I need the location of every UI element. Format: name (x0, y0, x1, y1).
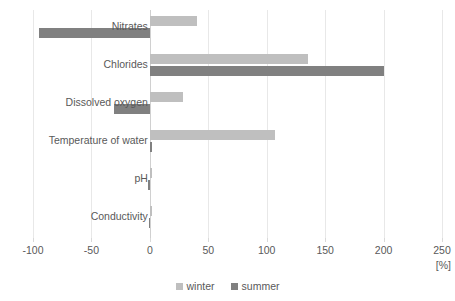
bar-summer (150, 142, 152, 152)
bar-winter (150, 130, 275, 140)
tick-mark-200 (384, 238, 385, 242)
tick-mark-0 (150, 238, 151, 242)
x-tick-label: 150 (316, 244, 334, 257)
bar-group: Nitrates (33, 10, 442, 48)
chart-legend: wintersummer (0, 280, 455, 293)
bar-winter (150, 168, 152, 178)
bar-chart: NitratesChloridesDissolved oxygenTempera… (0, 0, 455, 301)
bar-summer (114, 104, 150, 114)
x-tick-label: 250 (433, 244, 451, 257)
bar-group: pH (33, 162, 442, 200)
category-label: Conductivity (33, 209, 148, 223)
bar-group: Dissolved oxygen (33, 86, 442, 124)
bar-summer (39, 28, 150, 38)
x-tick-label: 50 (202, 244, 214, 257)
x-axis: -100-50050100150200250 (33, 238, 442, 262)
gridline-250 (442, 10, 443, 238)
bar-summer (149, 218, 150, 228)
legend-item-winter[interactable]: winter (176, 280, 215, 293)
tick-mark--50 (91, 238, 92, 242)
bar-winter (150, 16, 197, 26)
tick-mark-150 (325, 238, 326, 242)
legend-label: summer (242, 280, 280, 293)
tick-mark-100 (267, 238, 268, 242)
category-label: pH (33, 171, 148, 185)
bar-summer (150, 66, 384, 76)
category-label: Chlorides (33, 57, 148, 71)
bar-winter (150, 54, 308, 64)
bar-winter (150, 206, 152, 216)
tick-mark-50 (208, 238, 209, 242)
x-axis-unit-label: [%] (436, 259, 451, 271)
bar-group: Conductivity (33, 200, 442, 238)
x-tick-label: 100 (258, 244, 276, 257)
legend-swatch-icon (231, 283, 238, 290)
legend-item-summer[interactable]: summer (231, 280, 280, 293)
legend-label: winter (187, 280, 215, 293)
x-tick-label: -100 (22, 244, 43, 257)
x-tick-label: 0 (147, 244, 153, 257)
x-tick-label: -50 (84, 244, 99, 257)
plot-area: NitratesChloridesDissolved oxygenTempera… (33, 10, 442, 238)
bar-winter (150, 92, 183, 102)
legend-swatch-icon (176, 283, 183, 290)
bar-group: Chlorides (33, 48, 442, 86)
tick-mark-250 (442, 238, 443, 242)
tick-mark--100 (33, 238, 34, 242)
category-label: Temperature of water (33, 133, 148, 147)
bar-summer (148, 180, 150, 190)
bar-group: Temperature of water (33, 124, 442, 162)
x-tick-label: 200 (375, 244, 393, 257)
